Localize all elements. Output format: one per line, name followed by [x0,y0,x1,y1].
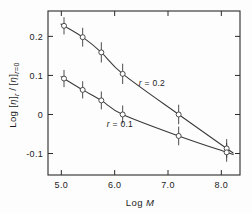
svg-text:Log [η]r / [η]r=0: Log [η]r / [η]r=0 [7,62,20,128]
series-label: r = 0.2 [139,78,165,88]
figure-container: 5.06.07.08.00.20.10-0.1 r = 0.2r = 0.1 L… [0,0,252,213]
data-point-marker [176,133,181,138]
y-tick-label: 0.1 [30,71,43,81]
y-tick-label: -0.1 [26,149,43,159]
y-tick-label: 0.2 [30,32,43,42]
x-tick-label: 7.0 [161,180,174,190]
data-point-marker [62,23,67,28]
data-markers [62,23,230,155]
data-point-marker [99,50,104,55]
tick-labels: 5.06.07.08.00.20.10-0.1 [26,32,228,190]
axis-ticks [48,11,240,175]
x-axis-label-prefix: Log [126,197,146,208]
x-tick-label: 6.0 [108,180,121,190]
plot-frame [48,11,240,175]
series-curve [61,77,234,155]
error-bars [64,17,227,161]
data-point-marker [120,112,125,117]
data-point-marker [62,76,67,81]
data-point-marker [176,112,181,117]
series-label: r = 0.1 [107,119,133,129]
series-curve [61,24,234,153]
data-point-marker [99,98,104,103]
x-axis-label-variable: M [146,197,154,208]
y-tick-label: 0 [38,110,43,120]
data-point-marker [224,150,229,155]
chart-plot: 5.06.07.08.00.20.10-0.1 r = 0.2r = 0.1 L… [0,0,252,213]
data-curves [61,24,234,155]
svg-text:Log M: Log M [126,197,154,208]
x-tick-label: 8.0 [215,180,228,190]
data-point-marker [120,71,125,76]
series-annotations: r = 0.2r = 0.1 [107,78,165,129]
data-point-marker [80,87,85,92]
plot-frame-rect [48,11,240,175]
data-point-marker [80,35,85,40]
x-tick-label: 5.0 [55,180,68,190]
y-axis-label: Log [η]r / [η]r=0 [7,62,20,128]
x-axis-label: Log M [126,197,154,208]
